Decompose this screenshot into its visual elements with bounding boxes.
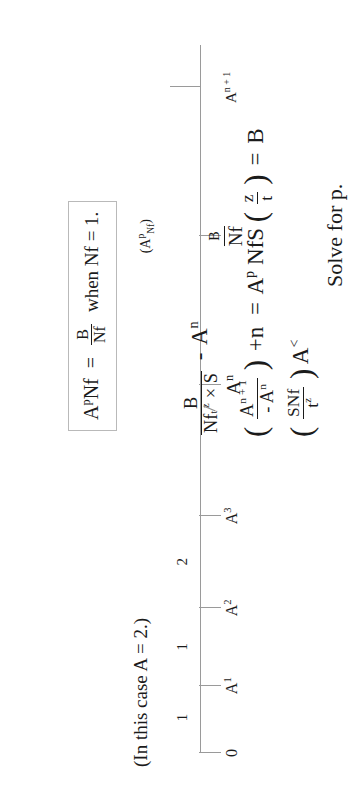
algebra-work-area: ApNf = B Nf when Nf = 1. B Nfzt× S - An [6,7,352,437]
case-annotation: (In this case A = 2.) [130,618,152,767]
third-den-base: t [302,403,322,408]
tick-label-0: 0 [224,749,240,757]
second-den-minus: - [257,407,277,413]
second-rhs-base: A [243,278,268,295]
third-tail: A< [288,340,313,365]
boxed-lhs: ApNf [80,378,103,420]
tick-label-a2-base: A [223,605,240,617]
third-open-paren: ( [284,427,319,437]
boxed-equals: = [80,357,103,368]
tick-label-a1-exp: 1 [222,677,233,682]
tick-label-a3: A3 [224,507,240,524]
main-den-times-s: × S [201,373,221,398]
main-den-diagonal-fraction: zt [202,398,217,413]
equation-line-second: ( An + 1 - An ) +n = Ap NfS ( z t ) = [238,128,277,437]
main-den-nf: Nf [201,414,221,433]
main-minus-term-base: A [187,328,212,345]
rotated-page-wrapper: (In this case A = 2.) 0 A1 A2 A3 [0,0,355,793]
second-rhs-fraction-numerator: z [239,192,257,204]
boxed-lhs-base: A [80,406,102,420]
tick-label-a2: A2 [224,599,240,616]
third-fraction-numerator: SNf [285,387,303,419]
main-fraction-denominator: Nfzt× S [202,371,221,435]
boxed-identity: ApNf = B Nf when Nf = 1. [68,201,117,431]
gap-label-3: 2 [174,558,191,566]
second-rhs-equals: = [243,150,268,169]
second-rhs-a-power: Ap [243,271,268,295]
main-minus: - [187,350,212,364]
second-rhs-fraction: z t [239,192,276,204]
solve-instruction: Solve for p. [322,184,348,287]
second-rhs-sup: p [241,271,257,278]
tick-label-a1-base: A [223,683,240,695]
main-den-sfrac-den: t [209,411,220,414]
second-rhs-nfs: NfS [243,228,268,265]
second-equals: = [243,299,268,318]
boxed-fraction: B Nf [75,324,109,345]
second-num-sup: n + 1 [236,380,248,404]
third-tail-base: A [288,348,313,365]
third-den-sup: z [301,398,313,403]
main-fraction-numerator: B [182,371,201,435]
boxed-lhs-tail: Nf [80,378,102,399]
note-sheet: (In this case A = 2.) 0 A1 A2 A3 [0,0,355,793]
tick-0 [199,752,221,753]
gap-label-1: 1 [174,714,191,722]
boxed-fraction-denominator: Nf [92,324,108,345]
boxed-fraction-numerator: B [75,324,91,345]
tick-a1 [199,685,221,686]
tick-label-a1: A1 [224,677,240,694]
second-num-base: A [237,404,257,417]
second-open-paren: ( [238,427,273,437]
second-den-base: A [257,390,277,403]
third-fraction-denominator: tz [304,387,322,419]
tick-a3 [199,515,221,516]
second-plus-n: +n [243,324,268,354]
boxed-condition: when Nf = 1. [81,212,103,312]
tick-a2 [199,607,221,608]
second-rhs-close-paren: ) [238,174,273,184]
tick-label-a3-base: A [223,513,240,525]
second-fraction: An + 1 - An [238,378,277,419]
tick-label-a3-exp: 3 [222,507,233,512]
second-rhs-open-paren: ( [238,212,273,222]
boxed-lhs-sup: p [80,399,94,405]
second-rhs-fraction-denominator: t [258,192,276,204]
second-fraction-denominator: - An [258,378,277,419]
second-close-paren: ) [238,360,273,370]
main-minus-term: An [187,321,212,345]
second-rhs-value: B [243,128,268,143]
third-tail-sup: < [287,340,303,348]
main-minus-term-sup: n [185,321,201,328]
main-fraction: B Nfzt× S [182,371,221,435]
equation-line-third: ( SNf tz ) A< [284,340,321,438]
tick-label-a2-exp: 2 [222,599,233,604]
equation-line-main: B Nfzt× S - An [182,321,221,437]
gap-label-2: 1 [174,643,191,651]
tick-label-0-text: 0 [223,749,240,757]
third-close-paren: ) [284,369,319,379]
second-fraction-numerator: An + 1 [238,378,257,419]
third-fraction: SNf tz [285,387,322,419]
second-den-sup: n [256,384,268,390]
